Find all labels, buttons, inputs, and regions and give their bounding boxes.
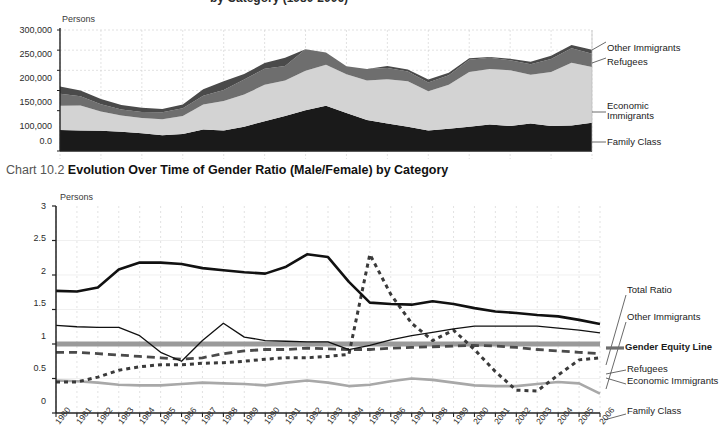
chart-gender-ratio-by-category: Persons 3 2.5 2 1.5 1 0.5 0 198019811982…: [0, 190, 710, 442]
chart2-label-refugees: Refugees: [627, 364, 668, 374]
chart2-heading: Chart 10.2 Evolution Over Time of Gender…: [6, 163, 448, 177]
chart2-ytick-0: 0: [0, 396, 46, 406]
chart2-label-other-immigrants: Other Immigrants: [627, 312, 700, 322]
chart1-ytick-300000: 300,000: [0, 25, 52, 35]
chart2-label-family-class: Family Class: [627, 406, 681, 416]
chart1-plot-area: [56, 20, 596, 160]
chart-immigration-by-category: Persons 300,000 250,000 200,000 150,000 …: [0, 10, 710, 160]
top-cropped-title-text: by Category (1980-2006): [210, 0, 348, 5]
chart2-figure-number: Chart 10.2: [6, 163, 64, 177]
chart1-ytick-100000: 100,000: [0, 121, 52, 131]
chart1-ytick-200000: 200,000: [0, 73, 52, 83]
chart1-ytick-0: 0.0: [0, 136, 52, 146]
chart1-label-economic-immigrants-line2: Immigrants: [607, 111, 654, 121]
chart1-label-refugees: Refugees: [607, 57, 648, 67]
chart1-ytick-150000: 150,000: [0, 97, 52, 107]
chart2-label-economic-immigrants: Economic Immigrants: [627, 376, 718, 386]
chart2-ytick-1_5: 1.5: [0, 298, 46, 308]
chart1-label-family-class: Family Class: [607, 137, 661, 147]
chart2-ytick-3: 3: [0, 201, 46, 211]
chart1-label-other-immigrants: Other Immigrants: [607, 43, 680, 53]
chart2-label-total-ratio: Total Ratio: [627, 285, 672, 295]
chart2-ytick-2: 2: [0, 266, 46, 276]
chart2-ytick-2_5: 2.5: [0, 233, 46, 243]
chart2-ytick-0_5: 0.5: [0, 363, 46, 373]
chart1-ytick-250000: 250,000: [0, 49, 52, 59]
chart2-y-axis-title: Persons: [60, 192, 93, 202]
chart2-ytick-1: 1: [0, 331, 46, 341]
chart2-plot-area: [50, 202, 606, 432]
chart2-title: Evolution Over Time of Gender Ratio (Mal…: [68, 163, 448, 177]
chart2-label-gender-equity-line: Gender Equity Line: [625, 342, 712, 352]
